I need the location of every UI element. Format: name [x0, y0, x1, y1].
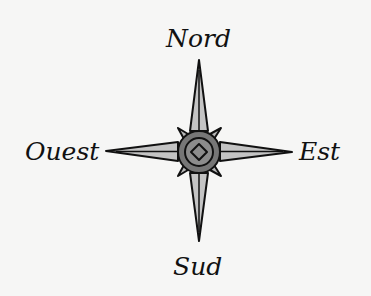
compass-rose-icon — [0, 0, 371, 296]
